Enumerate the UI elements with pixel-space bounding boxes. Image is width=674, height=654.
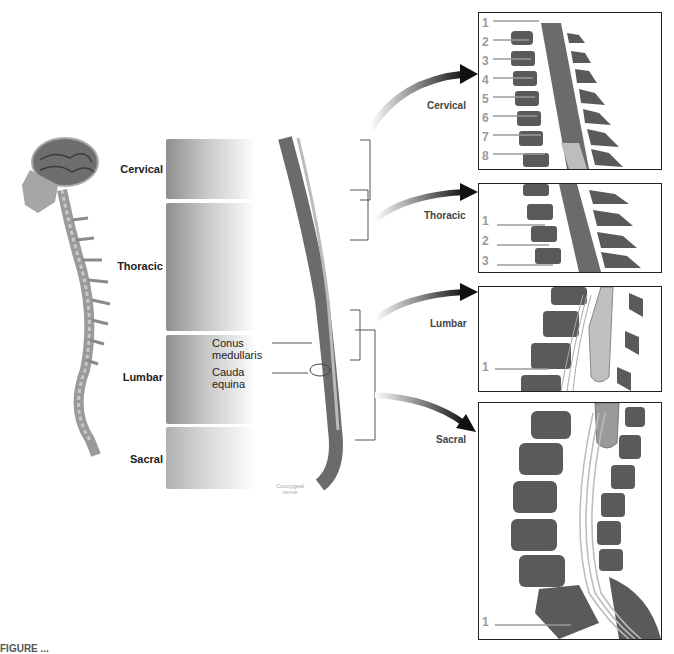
sacral-nerve-label: 1 bbox=[482, 615, 489, 629]
region-arrows bbox=[360, 60, 480, 460]
region-label-cervical: Cervical bbox=[103, 163, 163, 175]
figure-caption: FIGURE ... bbox=[0, 643, 49, 654]
arrow-label-lumbar: Lumbar bbox=[430, 318, 467, 329]
inset-sacral bbox=[478, 402, 662, 640]
lumbar-nerve-label: 1 bbox=[482, 360, 489, 374]
coccygeal-nerve-label: Coccygeal nerve bbox=[276, 483, 304, 495]
inset-cervical bbox=[478, 12, 662, 170]
inset-thoracic bbox=[478, 183, 662, 273]
arrow-label-thoracic: Thoracic bbox=[424, 210, 466, 221]
region-label-sacral: Sacral bbox=[103, 453, 163, 465]
head-spine-illustration bbox=[0, 110, 120, 470]
inset-lumbar bbox=[478, 286, 662, 392]
region-label-lumbar: Lumbar bbox=[103, 371, 163, 383]
arrow-label-cervical: Cervical bbox=[427, 100, 466, 111]
arrow-label-sacral: Sacral bbox=[436, 434, 466, 445]
region-label-thoracic: Thoracic bbox=[103, 260, 163, 272]
